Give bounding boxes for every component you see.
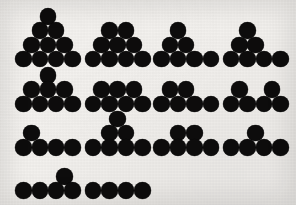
disc	[256, 96, 273, 113]
disc	[85, 51, 102, 68]
disc	[170, 139, 187, 156]
disc	[118, 139, 135, 156]
disc	[223, 96, 240, 113]
disc	[118, 51, 135, 68]
disc	[118, 96, 135, 113]
disc	[101, 96, 118, 113]
disc	[153, 96, 170, 113]
disc	[85, 182, 102, 199]
disc	[85, 96, 102, 113]
disc	[203, 139, 220, 156]
disc	[134, 182, 151, 199]
disc	[48, 96, 65, 113]
disc	[118, 182, 135, 199]
disc	[32, 51, 49, 68]
disc	[223, 51, 240, 68]
disc	[239, 51, 256, 68]
disc	[101, 182, 118, 199]
disc	[256, 51, 273, 68]
disc	[15, 182, 32, 199]
disc	[239, 139, 256, 156]
disc	[15, 51, 32, 68]
disc	[64, 96, 81, 113]
disc	[186, 51, 203, 68]
disc	[203, 51, 220, 68]
disc	[85, 139, 102, 156]
disc	[48, 139, 65, 156]
disc	[223, 139, 240, 156]
disc	[256, 139, 273, 156]
disc	[101, 51, 118, 68]
disc	[134, 96, 151, 113]
disc	[239, 96, 256, 113]
disc	[170, 51, 187, 68]
disc	[64, 51, 81, 68]
disc	[186, 139, 203, 156]
disc	[101, 139, 118, 156]
disc	[64, 182, 81, 199]
disc	[134, 51, 151, 68]
disc	[32, 139, 49, 156]
disc	[170, 96, 187, 113]
disc	[64, 139, 81, 156]
disc	[32, 182, 49, 199]
disc	[15, 139, 32, 156]
disc	[32, 96, 49, 113]
disc	[134, 139, 151, 156]
disc	[48, 182, 65, 199]
disc	[15, 96, 32, 113]
circle-packing-figure	[0, 0, 296, 205]
disc	[272, 96, 289, 113]
disc	[48, 51, 65, 68]
disc	[153, 51, 170, 68]
disc	[153, 139, 170, 156]
disc	[272, 51, 289, 68]
disc	[186, 96, 203, 113]
disc	[203, 96, 220, 113]
disc	[272, 139, 289, 156]
